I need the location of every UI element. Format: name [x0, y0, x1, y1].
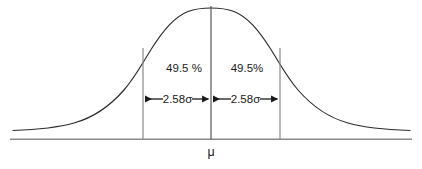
left-area-percentage-label: 49.5 %: [166, 62, 202, 74]
right-sigma-interval-label: 2.58σ: [231, 93, 260, 105]
mean-symbol-label: μ: [207, 145, 214, 159]
right-area-percentage-label: 49.5%: [231, 62, 264, 74]
distribution-plot: 49.5 % 49.5% 2.58σ 2.58σ μ: [0, 0, 422, 169]
normal-distribution-figure: 49.5 % 49.5% 2.58σ 2.58σ μ: [0, 0, 422, 169]
left-sigma-interval-label: 2.58σ: [163, 93, 192, 105]
